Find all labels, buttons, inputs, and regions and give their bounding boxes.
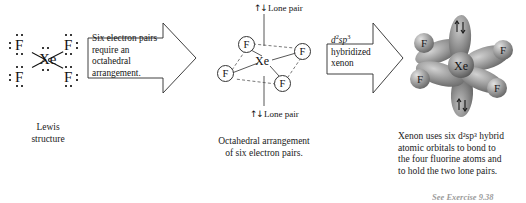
lone-pair-top-label: Lone pair [268,3,303,13]
lewis-ligand-atom: F [15,70,23,85]
svg-text:F: F [500,44,506,56]
figure-canvas: Xe F F F F [0,0,526,203]
arrow2-line-3: xenon [331,58,381,70]
arrow1-line-2: require an octahedral [92,45,168,68]
electron-dot [21,34,23,36]
orbital-model-3d: F F F F [398,2,526,126]
hybrid-sp-superscript: 3 [347,33,350,40]
model-caption-line-2: atomic orbitals to bond to [398,143,524,155]
lewis-ligand-atom: F [64,70,72,85]
lewis-ligand-atom: F [64,38,72,53]
electron-dot [9,79,11,81]
electron-dot [9,74,11,76]
model-caption-line-4: to hold the two lone pairs. [398,166,524,178]
lewis-structure-diagram: Xe F F F F [2,22,94,96]
octahedral-caption-line-2: of six electron pairs. [190,148,338,160]
electron-dot [16,66,18,68]
electron-dot [16,34,18,36]
svg-text:F: F [421,37,427,49]
lewis-ligand-atom: F [15,38,23,53]
lewis-caption-line-2: structure [8,134,88,146]
octahedral-center-atom: Xe [255,55,269,67]
arrow1-line-3: arrangement. [92,68,168,80]
hybrid-sp: sp [339,35,347,45]
svg-text:F: F [494,82,500,94]
arrow1-line-1: Six electron pairs [92,33,168,45]
svg-text:F: F [417,73,423,85]
electron-dot [9,47,11,49]
electron-dot [21,85,23,87]
electron-dot [65,34,67,36]
octahedral-ligand-f-left: F [217,65,234,82]
electron-dot [21,53,23,55]
electron-dot [21,66,23,68]
lewis-caption: Lewis structure [8,122,88,145]
model-caption: Xenon uses six d²sp³ hybrid atomic orbit… [398,131,524,177]
octahedral-ligand-f-right: F [294,43,311,60]
lone-pair-bottom-label: Lone pair [264,109,299,119]
svg-text:Xe: Xe [454,59,468,73]
octahedral-caption: Octahedral arrangement of six electron p… [190,136,338,159]
lewis-caption-line-1: Lewis [8,122,88,134]
electron-dot [76,47,78,49]
electron-dot [42,47,44,49]
electron-dot [16,53,18,55]
electron-dot [76,79,78,81]
arrow2-line-1: d2sp3 [331,35,381,47]
electron-dot [16,85,18,87]
lone-pair-bottom-spin-arrows: ↑↓ [250,109,263,119]
electron-dot [65,66,67,68]
electron-dot [70,66,72,68]
model-caption-line-1: Xenon uses six d²sp³ hybrid [398,131,524,143]
lone-pair-top-spin-arrows: ↑↓ [254,3,267,13]
electron-dot [47,47,49,49]
arrow2-line-2: hybridized [331,47,381,59]
electron-dot [65,53,67,55]
electron-dot [76,42,78,44]
arrow-six-electron-pairs-text: Six electron pairs require an octahedral… [92,33,168,79]
electron-dot [70,53,72,55]
exercise-reference: See Exercise 9.38 [432,192,494,202]
electron-dot [42,69,44,71]
electron-dot [65,85,67,87]
octahedral-caption-line-1: Octahedral arrangement [190,136,338,148]
electron-dot [76,74,78,76]
octahedral-arrangement-diagram: F F F F Xe ↑↓ Lone pair ↑↓ Lone pair [196,0,332,128]
arrow-d2sp3-text: d2sp3 hybridized xenon [331,35,381,70]
model-caption-line-3: the four fluorine atoms and [398,154,524,166]
octahedral-ligand-f-front: F [274,75,291,92]
electron-dot [70,34,72,36]
octahedral-ligand-f-back: F [238,36,255,53]
lewis-center-atom: Xe [39,52,57,67]
electron-dot [9,42,11,44]
electron-dot [47,69,49,71]
electron-dot [70,85,72,87]
